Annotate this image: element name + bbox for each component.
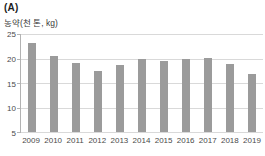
bar-2013 (116, 65, 124, 132)
xtick-label-2016: 2016 (177, 136, 195, 145)
y-axis-unit-label: 농약(천 톤, kg) (4, 16, 58, 28)
ytick-label-5: 5 (0, 129, 16, 138)
gridline-y-25 (21, 34, 263, 35)
ytick-mark-15 (17, 83, 21, 84)
bar-2012 (94, 71, 102, 132)
gridline-y-5 (21, 132, 263, 133)
bar-2017 (204, 58, 212, 132)
xtick-label-2014: 2014 (133, 136, 151, 145)
bar-2015 (160, 61, 168, 132)
bar-2009 (28, 43, 36, 132)
xtick-label-2011: 2011 (67, 136, 84, 145)
ytick-label-25: 25 (0, 30, 16, 39)
chart-figure: (A) 농약(천 톤, kg) 252015105200920102011201… (0, 0, 265, 156)
ytick-label-20: 20 (0, 54, 16, 63)
figure-label: (A) (4, 2, 18, 13)
bar-2010 (50, 56, 58, 132)
bar-2018 (226, 64, 234, 132)
xtick-label-2010: 2010 (44, 136, 62, 145)
xtick-label-2015: 2015 (155, 136, 173, 145)
xtick-label-2018: 2018 (221, 136, 239, 145)
xtick-label-2012: 2012 (88, 136, 106, 145)
xtick-label-2009: 2009 (22, 136, 40, 145)
bar-2019 (248, 74, 256, 132)
xtick-label-2013: 2013 (111, 136, 129, 145)
bar-2016 (182, 59, 190, 133)
plot-area (20, 34, 263, 133)
ytick-mark-25 (17, 34, 21, 35)
bar-2014 (138, 59, 146, 132)
bar-2011 (72, 63, 80, 132)
ytick-label-15: 15 (0, 79, 16, 88)
ytick-mark-20 (17, 59, 21, 60)
xtick-label-2019: 2019 (243, 136, 261, 145)
ytick-mark-10 (17, 108, 21, 109)
xtick-label-2017: 2017 (199, 136, 217, 145)
ytick-label-10: 10 (0, 104, 16, 113)
ytick-mark-5 (17, 132, 21, 133)
